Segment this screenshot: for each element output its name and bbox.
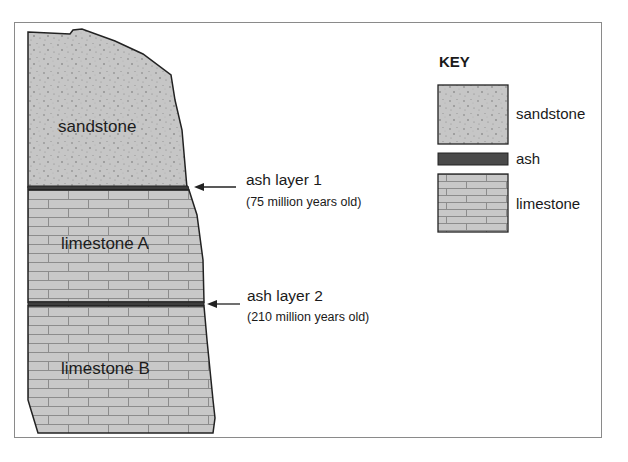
- key-ash-label: ash: [516, 150, 540, 167]
- key-limestone-label: limestone: [516, 195, 580, 212]
- ash-layer-2-age: (210 million years old): [247, 310, 369, 324]
- arrow-ash-layer-2: [207, 300, 240, 308]
- limestone-b-label: limestone B: [61, 359, 150, 379]
- arrow-ash-layer-1: [194, 183, 236, 191]
- ash-layer-1-age: (75 million years old): [246, 195, 361, 209]
- ash-layer-2-label: ash layer 2: [247, 287, 323, 305]
- key-sandstone-label: sandstone: [516, 105, 585, 122]
- key-limestone-swatch: [438, 174, 508, 232]
- sandstone-label: sandstone: [58, 117, 136, 137]
- key-sandstone-swatch: [438, 85, 508, 144]
- rock-column-diagram: [0, 0, 628, 462]
- limestone-a-label: limestone A: [61, 234, 149, 254]
- ash-layer-1-label: ash layer 1: [246, 171, 322, 189]
- key-ash-swatch: [438, 153, 508, 165]
- key-title: KEY: [439, 53, 470, 70]
- sandstone-layer: [28, 29, 187, 188]
